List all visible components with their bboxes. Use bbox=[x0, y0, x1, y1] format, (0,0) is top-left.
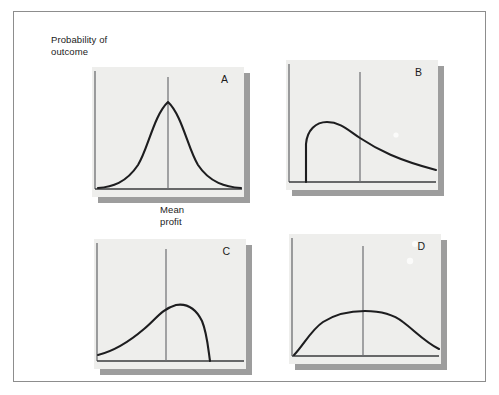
y-axis-label: Probability of outcome bbox=[51, 34, 107, 57]
panel-c-curve bbox=[98, 305, 210, 361]
panel-d-plot bbox=[289, 234, 441, 364]
panel-d-curve bbox=[294, 311, 439, 355]
panel-d-speck-lower bbox=[407, 258, 413, 264]
panel-c-plot bbox=[94, 239, 246, 369]
panel-c: C bbox=[94, 239, 246, 369]
panel-b-speck bbox=[393, 132, 398, 137]
panel-a-curve bbox=[98, 102, 241, 188]
panel-d: D bbox=[289, 234, 441, 364]
x-axis-label: Mean profit bbox=[160, 204, 184, 227]
panel-b-plot bbox=[286, 60, 438, 190]
panel-a-letter: A bbox=[221, 73, 228, 85]
panel-b: B bbox=[286, 60, 438, 190]
panel-b-curve bbox=[306, 122, 436, 182]
figure-frame: Probability of outcome Mean profit A B bbox=[13, 11, 486, 382]
panel-c-letter: C bbox=[222, 245, 230, 257]
panel-a-plot bbox=[92, 67, 244, 197]
panel-a: A bbox=[92, 67, 244, 197]
panel-d-letter: D bbox=[417, 240, 425, 252]
panel-b-letter: B bbox=[415, 66, 422, 78]
